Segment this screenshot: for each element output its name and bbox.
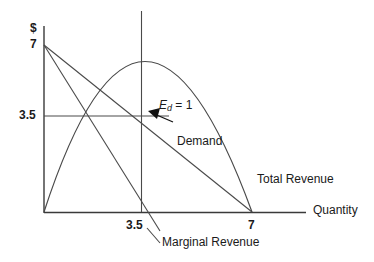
y-axis-unit-label: $ [30, 22, 37, 34]
elasticity-annotation: Ed = 1 [159, 99, 192, 111]
marginal-revenue-curve [44, 45, 160, 231]
elasticity-total-revenue-figure: $ 7 3.5 3.5 7 Quantity Ed = 1 Demand Tot… [0, 0, 374, 262]
demand-curve [44, 45, 252, 212]
y-axis-tick-7: 7 [30, 38, 37, 50]
x-axis-tick-3point5: 3.5 [126, 219, 143, 231]
marginal-revenue-curve-label: Marginal Revenue [162, 236, 259, 248]
total-revenue-curve-label: Total Revenue [257, 173, 334, 185]
marginal-revenue-leader-line [147, 228, 160, 243]
elasticity-value: = 1 [172, 98, 192, 112]
demand-curve-label: Demand [177, 135, 222, 147]
x-axis-tick-7: 7 [248, 219, 255, 231]
elasticity-subscript: d [167, 103, 172, 113]
elasticity-symbol: E [159, 98, 167, 112]
x-axis-title: Quantity [313, 204, 358, 216]
y-axis-tick-3point5: 3.5 [19, 109, 36, 121]
figure-canvas [0, 0, 374, 262]
